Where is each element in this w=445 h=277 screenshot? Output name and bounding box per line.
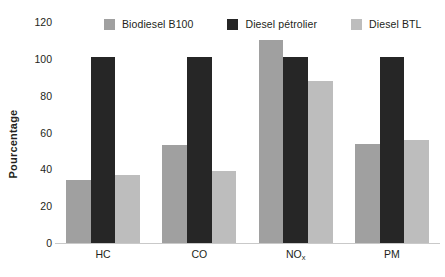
y-axis-tick-label: 40	[40, 163, 52, 175]
x-axis-tick-label-text: CO	[192, 248, 208, 260]
bar-group	[355, 22, 429, 243]
y-axis-tick-labels: 020406080100120	[24, 22, 52, 243]
bar[interactable]	[115, 175, 140, 243]
bar[interactable]	[91, 57, 116, 243]
bar[interactable]	[404, 140, 429, 243]
bar-group	[66, 22, 140, 243]
y-axis-tick-label: 60	[40, 127, 52, 139]
y-axis-tick-label: 20	[40, 200, 52, 212]
bar-group	[259, 22, 333, 243]
x-axis-tick-label: PM	[384, 248, 400, 260]
bar[interactable]	[355, 144, 380, 243]
bar[interactable]	[212, 171, 237, 243]
x-axis-tick-label: HC	[96, 248, 111, 260]
x-axis-tick-label: CO	[192, 248, 208, 260]
bar[interactable]	[187, 57, 212, 243]
x-axis-tick-label-subscript: x	[302, 253, 306, 262]
y-axis-tick-label: 0	[46, 237, 52, 249]
x-axis-tick-labels: HCCONOxPM	[55, 248, 440, 266]
plot-area	[55, 22, 440, 243]
y-axis-tick-label: 80	[40, 90, 52, 102]
x-axis-line	[55, 243, 440, 244]
bar[interactable]	[66, 180, 91, 243]
y-axis-title: Pourcentage	[2, 96, 24, 192]
y-axis-tick-label: 100	[34, 53, 52, 65]
bar[interactable]	[283, 57, 308, 243]
bar[interactable]	[308, 81, 333, 243]
bar[interactable]	[162, 145, 187, 243]
x-axis-tick-label-text: PM	[384, 248, 400, 260]
x-axis-tick-label-text: NO	[286, 248, 302, 260]
x-axis-tick-label: NOx	[286, 248, 306, 260]
bar[interactable]	[259, 40, 284, 243]
y-axis-tick-label: 120	[34, 16, 52, 28]
y-axis-title-label: Pourcentage	[7, 110, 19, 179]
bar-group	[162, 22, 236, 243]
bar-chart: Biodiesel B100Diesel pétrolierDiesel BTL…	[0, 0, 445, 277]
bar[interactable]	[380, 57, 405, 243]
x-axis-tick-label-text: HC	[96, 248, 111, 260]
